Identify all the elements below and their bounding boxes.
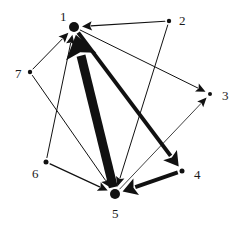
node-5 bbox=[110, 189, 120, 199]
edge-4-to-5 bbox=[123, 172, 178, 194]
node-label-7: 7 bbox=[15, 66, 22, 81]
node-label-3: 3 bbox=[222, 88, 229, 103]
edge-6-to-5 bbox=[50, 164, 108, 191]
node-label-6: 6 bbox=[32, 166, 39, 181]
node-3 bbox=[208, 92, 212, 96]
edge-2-to-1 bbox=[82, 21, 165, 30]
edge-line bbox=[120, 104, 201, 189]
node-4 bbox=[180, 169, 185, 174]
node-6 bbox=[44, 160, 49, 165]
edge-line bbox=[135, 172, 178, 187]
node-7 bbox=[28, 70, 32, 74]
node-2 bbox=[167, 19, 171, 23]
edge-line bbox=[91, 21, 165, 26]
edge-7-to-1 bbox=[33, 33, 68, 69]
labels-layer: 1234567 bbox=[15, 9, 229, 221]
edge-2-to-5 bbox=[116, 25, 168, 186]
node-label-2: 2 bbox=[179, 13, 186, 28]
edge-5-to-1 bbox=[66, 35, 113, 187]
arrowhead-icon bbox=[163, 150, 179, 167]
edge-line bbox=[33, 39, 62, 69]
edges-layer bbox=[32, 21, 206, 195]
network-graph: 1234567 bbox=[0, 0, 242, 233]
node-label-1: 1 bbox=[60, 9, 67, 24]
node-1 bbox=[69, 22, 79, 32]
node-label-5: 5 bbox=[112, 206, 119, 221]
edge-line bbox=[120, 25, 168, 178]
node-label-4: 4 bbox=[194, 167, 201, 182]
edge-line bbox=[47, 43, 71, 157]
edge-line bbox=[50, 164, 100, 187]
